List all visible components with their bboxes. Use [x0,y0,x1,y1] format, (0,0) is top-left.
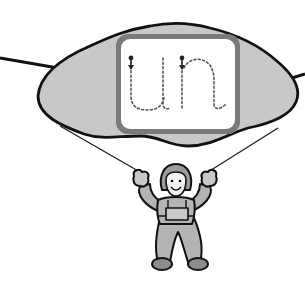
hanging-child-figure [133,164,217,270]
tracing-board-face [121,39,235,129]
left-hand [133,170,148,187]
right-shoe [188,258,208,270]
right-hand [201,170,216,187]
left-eye [171,180,174,183]
right-tether-line [292,74,305,78]
face [166,172,186,196]
right-eye [179,180,182,183]
left-tether-line [0,58,58,68]
left-shoe [152,258,172,270]
harness-pack [166,208,188,220]
illustration [0,0,305,283]
